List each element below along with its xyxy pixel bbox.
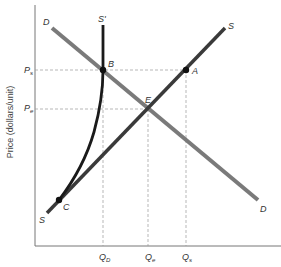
qs-tick-label: Qs: [182, 252, 192, 263]
pe-tick-label: Pe: [24, 103, 34, 114]
qd-tick-label: QD: [99, 252, 111, 263]
point-b-marker: [100, 67, 106, 73]
supply-demand-diagram: Price (dollars/unit) A B C E D D S S S' …: [0, 0, 281, 267]
point-e-label: E: [145, 95, 152, 105]
qe-tick-label: Qe: [145, 252, 156, 263]
point-a-label: A: [191, 66, 198, 76]
point-b-label: B: [108, 59, 114, 69]
supply-prime-label: S': [98, 14, 106, 24]
demand-top-label: D: [43, 17, 50, 27]
point-c-label: C: [63, 202, 70, 212]
demand-bottom-label: D: [260, 204, 267, 214]
ps-tick-label: Ps: [24, 65, 33, 76]
point-a-marker: [183, 67, 189, 73]
supply-bottom-label: S: [39, 215, 45, 225]
guide-lines: [35, 70, 186, 246]
supply-curve: [47, 28, 225, 213]
supply-top-label: S: [228, 21, 234, 31]
y-axis-title: Price (dollars/unit): [5, 86, 15, 159]
point-c-marker: [56, 197, 62, 203]
